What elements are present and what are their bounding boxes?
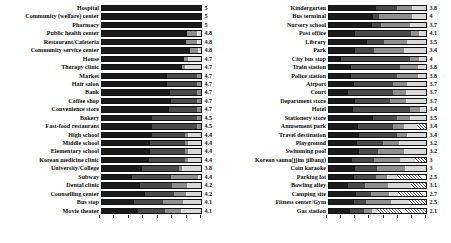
bar-segment-1 (102, 40, 186, 44)
category-label: Post office (225, 29, 328, 37)
bar-segment-1 (102, 133, 152, 137)
bar-segment-2 (355, 31, 411, 35)
bar-segment-4 (389, 192, 398, 196)
bar-segment-2 (354, 82, 393, 86)
bar-value-label: 2.5 (427, 173, 448, 181)
axis-tick (157, 215, 158, 218)
category-label: Coin karaoke (225, 164, 328, 172)
category-label: Fitness center/Gym (225, 198, 328, 206)
bar-value-label: 3.4 (427, 131, 448, 139)
bar-segment-1 (329, 48, 355, 52)
bar-segment-1 (102, 149, 150, 153)
category-label: University/College (0, 164, 101, 172)
bar-segment-3 (397, 133, 407, 137)
bar-segment-1 (102, 183, 140, 187)
stacked-bar (328, 13, 427, 19)
bar-row: Fitness center/Gym2.5 (225, 198, 451, 206)
axis-tick (340, 215, 341, 218)
chart-panel-left: Hospital5Community (welfare) center5Phar… (0, 0, 225, 243)
bar-value-label: 4.2 (202, 190, 223, 198)
bar-segment-1 (102, 107, 169, 111)
axis-tick (425, 215, 426, 218)
bar-row: Bowling alley3.1 (225, 181, 451, 189)
bar-segment-4 (406, 99, 426, 103)
bar-segment-2 (354, 200, 366, 204)
bar-segment-5 (415, 158, 426, 162)
bar-row: Kindergarten3.8 (225, 4, 451, 12)
bar-segment-2 (358, 124, 393, 128)
category-label: Convenience store (0, 105, 101, 113)
bar-segment-1 (329, 124, 358, 128)
bar-segment-1 (102, 6, 201, 10)
bar-segment-1 (329, 23, 372, 27)
bar-segment-1 (102, 14, 201, 18)
bar-value-label: 2.7 (427, 190, 448, 198)
stacked-bar (101, 132, 202, 138)
bar-segment-2 (150, 149, 186, 153)
bar-segment-3 (397, 6, 413, 10)
bar-row: Pharmacy5 (0, 21, 225, 29)
bar-row: Bank4.7 (0, 88, 225, 96)
bar-segment-4 (187, 183, 201, 187)
bar-row: High school4.4 (0, 131, 225, 139)
bar-row: Elementary school4.4 (0, 147, 225, 155)
bar-segment-4 (188, 133, 201, 137)
bar-row: Dental clinic4.2 (0, 181, 225, 189)
bar-value-label: 3.4 (427, 46, 448, 54)
stacked-bar (328, 165, 427, 171)
bar-row: Subway4.4 (0, 173, 225, 181)
x-axis-left (99, 215, 200, 219)
bar-segment-1 (102, 90, 170, 94)
category-label: Public health center (0, 29, 101, 37)
category-label: Fast-food restaurant (0, 122, 101, 130)
category-label: Travel destination (225, 131, 328, 139)
bar-segment-1 (329, 99, 355, 103)
category-label: Korean medicine clinic (0, 156, 101, 164)
bar-segment-1 (329, 31, 355, 35)
bar-segment-4 (186, 192, 201, 196)
category-label: High school (0, 131, 101, 139)
bar-value-label: 3.8 (427, 72, 448, 80)
bar-row: Bus terminal4 (225, 12, 451, 20)
bar-segment-3 (197, 107, 201, 111)
bar-segment-3 (197, 90, 201, 94)
category-label: City bus stop (225, 55, 328, 63)
category-label: Coffee shop (0, 97, 101, 105)
category-label: Amusement park (225, 122, 328, 130)
stacked-bar (328, 174, 427, 180)
stacked-bar (328, 182, 427, 188)
bar-row: Police station3.8 (225, 72, 451, 80)
stacked-bar (328, 98, 427, 104)
stacked-bar (101, 39, 202, 45)
category-label: Subway (0, 173, 101, 181)
bar-segment-3 (366, 200, 391, 204)
bar-row: Coffee shop4.7 (0, 97, 225, 105)
bar-segment-3 (410, 57, 419, 61)
bar-segment-1 (102, 175, 132, 179)
bar-row: Restaurant/Cafeteria4.8 (0, 38, 225, 46)
bar-value-label: 4.2 (202, 181, 223, 189)
stacked-bar (101, 13, 202, 19)
bar-segment-1 (102, 48, 190, 52)
bar-row: Airport3.7 (225, 80, 451, 88)
bar-segment-1 (102, 57, 184, 61)
bar-segment-4 (181, 209, 201, 213)
category-label: Stationery store (225, 114, 328, 122)
bar-value-label: 4.4 (202, 131, 223, 139)
bar-segment-4 (419, 31, 426, 35)
bar-row: Court3.7 (225, 88, 451, 96)
bar-value-label: 5 (202, 21, 223, 29)
bar-segment-2 (134, 200, 164, 204)
bar-segment-4 (405, 166, 426, 170)
bar-segment-2 (359, 149, 378, 153)
bar-value-label: 3.1 (427, 181, 448, 189)
stacked-bar (101, 140, 202, 146)
bar-row: Amusement park3.4 (225, 122, 451, 130)
bar-segment-1 (102, 192, 145, 196)
bar-segment-5 (417, 124, 426, 128)
stacked-bar (101, 81, 202, 87)
bar-value-label: 3 (427, 164, 448, 172)
axis-tick (354, 215, 355, 218)
bar-row: City bus stop4 (225, 55, 451, 63)
bar-segment-3 (410, 107, 420, 111)
